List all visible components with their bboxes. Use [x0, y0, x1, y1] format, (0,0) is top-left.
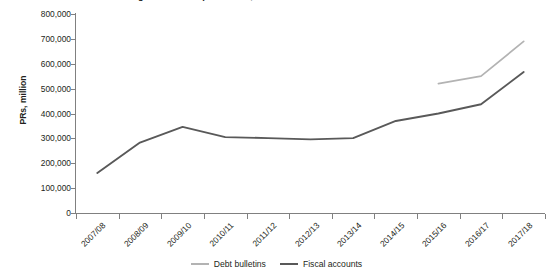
- x-axis-tick-mark: [545, 214, 546, 219]
- y-axis-tick-label: 600,000: [41, 60, 71, 68]
- y-axis-tick-mark: [71, 213, 75, 214]
- x-axis-tick-mark: [204, 214, 205, 219]
- y-axis-tick-label: 800,000: [41, 10, 71, 18]
- x-axis-tick-mark: [289, 214, 290, 219]
- chart-legend: Debt bulletinsFiscal accounts: [0, 259, 553, 269]
- x-axis-tick-label: 2009/10: [153, 221, 193, 261]
- x-axis-tick-mark: [119, 214, 120, 219]
- x-axis-tick-label: 2013/14: [323, 221, 363, 261]
- y-axis-tick-mark: [71, 64, 75, 65]
- x-axis-tick-label: 2010/11: [195, 221, 235, 261]
- y-axis-tick-label: 300,000: [41, 134, 71, 142]
- series-line-debt-bulletins: [438, 41, 523, 83]
- legend-label: Fiscal accounts: [303, 259, 362, 269]
- x-axis-tick-mark: [460, 214, 461, 219]
- y-axis-tick-mark: [71, 89, 75, 90]
- x-axis-tick-mark: [76, 214, 77, 219]
- x-axis-tick-label: 2012/13: [281, 221, 321, 261]
- x-axis-tick-mark: [247, 214, 248, 219]
- x-axis-tick-mark: [502, 214, 503, 219]
- x-axis-tick-mark: [161, 214, 162, 219]
- x-axis-tick-mark: [374, 214, 375, 219]
- y-axis-tick-mark: [71, 114, 75, 115]
- y-axis-tick-mark: [71, 163, 75, 164]
- legend-item[interactable]: Debt bulletins: [191, 259, 266, 269]
- x-axis-tick-mark: [417, 214, 418, 219]
- x-axis-tick-label: 2011/12: [238, 221, 278, 261]
- legend-label: Debt bulletins: [214, 259, 266, 269]
- x-axis-tick-mark: [332, 214, 333, 219]
- y-axis-tick-mark: [71, 188, 75, 189]
- x-axis-tick-label: 2014/15: [366, 221, 406, 261]
- line-chart: Figure: Pakistan public debt, debt bulle…: [0, 0, 553, 278]
- y-axis-tick-labels: 0100,000200,000300,000400,000500,000600,…: [0, 0, 71, 278]
- y-axis-tick-mark: [71, 14, 75, 15]
- y-axis-tick-label: 400,000: [41, 109, 71, 117]
- x-axis-tick-label: 2016/17: [451, 221, 491, 261]
- x-axis-tick-label: 2007/08: [67, 221, 107, 261]
- legend-item[interactable]: Fiscal accounts: [280, 259, 362, 269]
- series-line-fiscal-accounts: [97, 72, 523, 173]
- y-axis-tick-label: 700,000: [41, 35, 71, 43]
- y-axis-tick-mark: [71, 138, 75, 139]
- y-axis-tick-label: 200,000: [41, 159, 71, 167]
- x-axis-tick-label: 2008/09: [110, 221, 150, 261]
- legend-swatch-icon: [280, 263, 298, 265]
- legend-swatch-icon: [191, 263, 209, 265]
- y-axis-tick-mark: [71, 39, 75, 40]
- chart-title: Figure: Pakistan public debt, debt bulle…: [130, 0, 550, 2]
- y-axis-tick-label: 100,000: [41, 184, 71, 192]
- plot-area: [76, 14, 545, 213]
- y-axis-tick-label: 500,000: [41, 84, 71, 92]
- x-axis-tick-label: 2015/16: [408, 221, 448, 261]
- x-axis-tick-label: 2017/18: [494, 221, 534, 261]
- x-axis-line: [75, 213, 545, 214]
